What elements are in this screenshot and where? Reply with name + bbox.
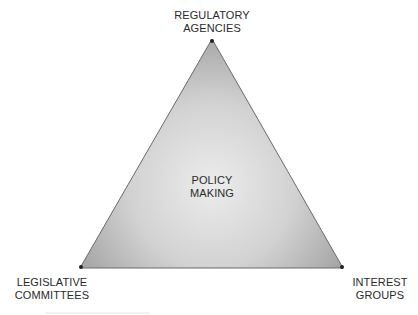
triangle-diagram bbox=[0, 0, 418, 315]
vertex-left-dot bbox=[79, 265, 83, 269]
vertex-top-dot bbox=[210, 39, 214, 43]
regulatory-agencies-line2: AGENCIES bbox=[162, 22, 262, 35]
legislative-committees-label: LEGISLATIVE COMMITTEES bbox=[0, 276, 104, 302]
regulatory-agencies-line1: REGULATORY bbox=[162, 9, 262, 22]
policy-making-label: POLICY MAKING bbox=[172, 174, 252, 200]
interest-groups-line2: GROUPS bbox=[342, 289, 418, 302]
regulatory-agencies-label: REGULATORY AGENCIES bbox=[162, 9, 262, 35]
legislative-committees-line2: COMMITTEES bbox=[0, 289, 104, 302]
policy-making-line1: POLICY bbox=[172, 174, 252, 187]
legislative-committees-line1: LEGISLATIVE bbox=[0, 276, 104, 289]
interest-groups-line1: INTEREST bbox=[342, 276, 418, 289]
policy-making-line2: MAKING bbox=[172, 187, 252, 200]
policy-triangle bbox=[80, 39, 343, 268]
vertex-right-dot bbox=[340, 265, 344, 269]
interest-groups-label: INTEREST GROUPS bbox=[342, 276, 418, 302]
